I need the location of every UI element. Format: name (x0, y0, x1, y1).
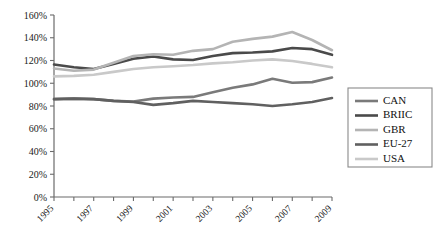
y-tick-label: 100% (24, 78, 47, 89)
x-tick-label: 2009 (313, 203, 334, 224)
y-tick-label: 80% (29, 101, 47, 112)
legend-label-can: CAN (383, 94, 406, 106)
x-tick-label: 2007 (273, 203, 294, 224)
legend-label-eu-27: EU-27 (383, 137, 413, 149)
y-tick-label: 60% (29, 123, 47, 134)
y-tick-label: 140% (24, 32, 47, 43)
x-tick-label: 2005 (233, 203, 254, 224)
y-axis: 0%20%40%60%80%100%120%140%160% (24, 10, 54, 203)
legend-label-gbr: GBR (383, 123, 406, 135)
y-tick-label-group: 0%20%40%60%80%100%120%140%160% (24, 10, 47, 203)
x-tick-label: 1997 (75, 203, 96, 224)
x-tick-group (54, 197, 332, 201)
series-line-can (54, 78, 332, 102)
y-tick-label: 160% (24, 10, 47, 21)
x-tick-label: 1999 (114, 203, 135, 224)
line-chart: 0%20%40%60%80%100%120%140%160% 199519971… (0, 0, 436, 249)
series-group (54, 32, 332, 106)
y-tick-label: 40% (29, 146, 47, 157)
legend: CANBRIICGBREU-27USA (348, 88, 432, 167)
y-tick-label: 20% (29, 169, 47, 180)
x-tick-label: 2003 (194, 203, 215, 224)
y-tick-label: 120% (24, 55, 47, 66)
x-axis: 19951997199920012003200520072009 (35, 197, 334, 224)
legend-label-briic: BRIIC (383, 108, 412, 120)
series-line-eu-27 (54, 98, 332, 106)
chart-canvas: 0%20%40%60%80%100%120%140%160% 199519971… (0, 0, 436, 249)
x-tick-label: 1995 (35, 203, 56, 224)
x-tick-label: 2001 (154, 203, 175, 224)
y-tick-label: 0% (34, 192, 47, 203)
legend-label-usa: USA (383, 152, 405, 164)
x-tick-label-group: 19951997199920012003200520072009 (35, 203, 334, 224)
